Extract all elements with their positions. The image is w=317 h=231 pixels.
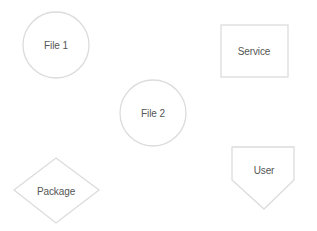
node-user-pentagon[interactable] <box>232 147 294 209</box>
node-file-1-circle[interactable] <box>23 12 89 78</box>
node-service-rectangle[interactable] <box>221 25 288 77</box>
node-file-2-circle[interactable] <box>120 80 186 146</box>
diagram-canvas <box>0 0 317 231</box>
node-package-diamond[interactable] <box>14 158 99 223</box>
